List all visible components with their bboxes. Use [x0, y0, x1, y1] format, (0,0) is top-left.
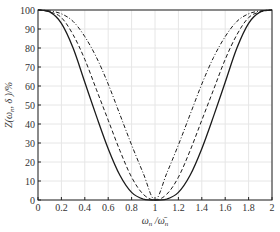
grid-lines	[38, 10, 272, 200]
y-tick-label: 0	[30, 195, 35, 206]
line-chart: 00.20.40.60.811.21.41.61.82 010203040506…	[0, 0, 280, 232]
y-tick-label: 40	[25, 119, 35, 130]
y-axis-label: Z(ωn, δ )/%	[3, 82, 16, 128]
y-tick-label: 80	[25, 43, 35, 54]
y-tick-label: 70	[25, 62, 35, 73]
y-tick-label: 20	[25, 157, 35, 168]
x-tick-label: 0.2	[55, 202, 68, 213]
y-tick-label: 10	[25, 176, 35, 187]
x-tick-label: 0.8	[125, 202, 138, 213]
x-tick-label: 1.8	[242, 202, 255, 213]
x-axis-ticks: 00.20.40.60.811.21.41.61.82	[36, 197, 275, 213]
x-tick-label: 1.6	[219, 202, 232, 213]
x-tick-label: 2	[270, 202, 275, 213]
x-tick-label: 0	[36, 202, 41, 213]
y-tick-label: 30	[25, 138, 35, 149]
x-tick-label: 1	[153, 202, 158, 213]
x-axis-label: ωn /ω̄n	[142, 215, 169, 228]
x-tick-label: 0.4	[79, 202, 92, 213]
x-tick-label: 1.2	[172, 202, 185, 213]
x-tick-label: 1.4	[196, 202, 209, 213]
y-tick-label: 100	[20, 5, 35, 16]
y-tick-label: 50	[25, 100, 35, 111]
y-tick-label: 90	[25, 24, 35, 35]
y-tick-label: 60	[25, 81, 35, 92]
x-tick-label: 0.6	[102, 202, 115, 213]
